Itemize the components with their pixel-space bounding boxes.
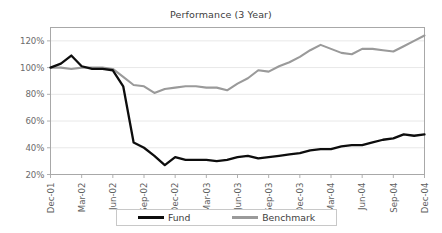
legend-swatch-fund — [138, 216, 164, 219]
series-line-benchmark — [51, 36, 425, 93]
legend-item-fund[interactable]: Fund — [138, 212, 191, 223]
legend-label-fund: Fund — [168, 212, 191, 223]
x-tick-label: Jun-02 — [108, 183, 118, 211]
y-tick-label: 40% — [25, 143, 44, 153]
x-tick-label: Mar-04 — [326, 183, 336, 213]
x-tick-label: Mar-02 — [77, 183, 87, 213]
y-tick-label: 60% — [25, 116, 44, 126]
legend-label-benchmark: Benchmark — [262, 212, 315, 223]
legend-swatch-benchmark — [232, 216, 258, 219]
x-tick-label: Jun-03 — [233, 183, 243, 211]
y-tick-label: 80% — [25, 89, 44, 99]
y-tick-label: 100% — [20, 63, 45, 73]
data-series — [51, 36, 425, 166]
chart-legend: Fund Benchmark — [116, 209, 337, 226]
gridlines — [51, 41, 425, 148]
x-axis-ticks: Dec-01Mar-02Jun-02Sep-02Dec-02Mar-03Jun-… — [46, 175, 430, 214]
x-tick-label: Sep-04 — [389, 183, 399, 213]
x-tick-label: Mar-03 — [202, 183, 212, 213]
performance-chart: Performance (3 Year) 20%40%60%80%100%120… — [0, 0, 442, 233]
legend-item-benchmark[interactable]: Benchmark — [232, 212, 315, 223]
y-tick-label: 120% — [20, 36, 45, 46]
y-axis-ticks: 20%40%60%80%100%120% — [20, 36, 51, 180]
x-tick-label: Jun-04 — [357, 183, 367, 211]
y-tick-label: 20% — [25, 170, 44, 180]
x-tick-label: Dec-04 — [420, 183, 430, 214]
x-tick-label: Dec-01 — [46, 183, 56, 214]
chart-plot-area: 20%40%60%80%100%120% Dec-01Mar-02Jun-02S… — [0, 0, 442, 233]
series-line-fund — [51, 56, 425, 166]
